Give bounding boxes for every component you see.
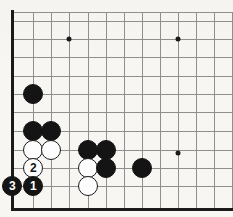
grid-line-vertical-7: [142, 12, 143, 208]
white-stone-d[interactable]: [78, 176, 98, 196]
stone-move-number: 1: [30, 180, 36, 192]
black-stone-b[interactable]: [23, 121, 43, 141]
white-stone-a[interactable]: [23, 140, 43, 160]
grid-line-vertical-5: [106, 12, 107, 208]
black-stone-d[interactable]: [78, 140, 98, 160]
grid-line-vertical-6: [124, 12, 125, 208]
grid-line-horizontal-9: [12, 186, 233, 187]
grid-line-vertical-2: [51, 12, 52, 208]
black-stone-f[interactable]: [96, 158, 116, 178]
grid-line-vertical-11: [214, 12, 215, 208]
white-stone-b[interactable]: [41, 140, 61, 160]
grid-line-horizontal-1: [12, 39, 233, 40]
black-stone-move-1[interactable]: 1: [23, 176, 43, 196]
go-board[interactable]: 231: [0, 0, 233, 217]
grid-line-horizontal-8: [12, 168, 233, 169]
white-stone-move-2[interactable]: 2: [23, 158, 43, 178]
grid-line-vertical-12: [232, 12, 233, 208]
stone-move-number: 3: [9, 180, 15, 192]
hoshi-right: [176, 151, 181, 156]
grid-line-horizontal-4: [12, 94, 233, 95]
hoshi-top-left: [67, 37, 72, 42]
grid-line-horizontal-top: [12, 12, 233, 13]
stone-move-number: 2: [30, 162, 36, 174]
grid-line-vertical-8: [160, 12, 161, 208]
black-stone-move-3[interactable]: 3: [2, 176, 22, 196]
grid-line-vertical-10: [196, 12, 197, 208]
grid-line-horizontal-0: [12, 21, 233, 22]
board-edge-bottom: [11, 208, 233, 211]
white-stone-c[interactable]: [78, 158, 98, 178]
grid-line-horizontal-3: [12, 76, 233, 77]
grid-line-horizontal-2: [12, 57, 233, 58]
black-stone-a[interactable]: [23, 84, 43, 104]
black-stone-c[interactable]: [41, 121, 61, 141]
hoshi-top-right: [176, 37, 181, 42]
black-stone-g[interactable]: [132, 158, 152, 178]
grid-line-horizontal-5: [12, 112, 233, 113]
black-stone-e[interactable]: [96, 140, 116, 160]
